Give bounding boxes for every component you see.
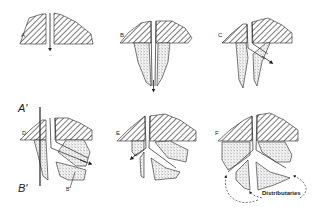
panel-a-label: A (21, 32, 25, 38)
panel-b-label: B (120, 32, 124, 38)
delta-distributary-diagram: A .. B C A' B' D B' (0, 0, 315, 214)
panel-f: F Distributaries (215, 113, 306, 203)
flow-arrow-icon (262, 56, 272, 63)
panel-e-label: E (116, 130, 120, 136)
distributaries-label: Distributaries (262, 190, 301, 196)
section-bottom-label: B' (18, 182, 28, 194)
section-top-label: A' (17, 102, 28, 114)
svg-text:..: .. (49, 51, 52, 57)
panel-b: B (120, 21, 192, 91)
panel-a: A .. (20, 13, 93, 57)
panel-d-label: D (22, 130, 27, 136)
panel-c: C (218, 18, 292, 88)
panel-d: A' B' D B' (17, 102, 92, 194)
panel-c-label: C (218, 32, 223, 38)
b-prime-annotation: B' (66, 186, 70, 192)
panel-f-label: F (215, 130, 219, 136)
flow-arrow-icon (131, 154, 137, 159)
panel-e: E (116, 114, 196, 180)
